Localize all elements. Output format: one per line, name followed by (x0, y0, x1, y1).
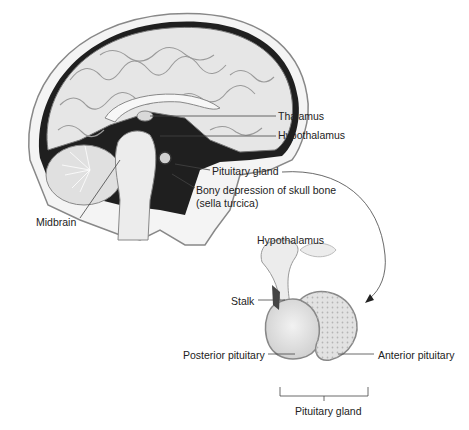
cerebellum-icon (46, 145, 122, 205)
label-thalamus: Thalamus (278, 110, 324, 122)
label-anterior-pituitary: Anterior pituitary (378, 349, 454, 361)
label-midbrain: Midbrain (36, 216, 76, 228)
label-stalk: Stalk (231, 295, 254, 307)
label-detail-hypothalamus: Hypothalamus (257, 234, 324, 246)
label-pituitary-gland-detail: Pituitary gland (295, 405, 362, 417)
label-sella-line1: Bony depression of skull bone (196, 184, 336, 196)
pituitary-small-icon (159, 152, 171, 164)
label-hypothalamus: Hypothalamus (278, 129, 345, 141)
label-pituitary-gland: Pituitary gland (212, 165, 279, 177)
label-sella-line2: (sella turcica) (196, 197, 258, 209)
diagram-canvas: Thalamus Hypothalamus Pituitary gland Bo… (0, 0, 469, 430)
label-posterior-pituitary: Posterior pituitary (183, 349, 265, 361)
brain-illustration (0, 0, 469, 430)
